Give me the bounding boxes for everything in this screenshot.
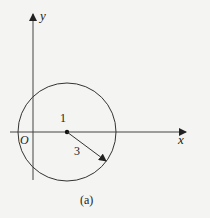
center-label: 1 [60,111,66,125]
radius-label: 3 [74,144,80,158]
radius-arrow [67,132,106,161]
circle-diagram: y x O 1 3 (a) [0,0,210,218]
y-axis-label: y [38,8,46,23]
x-axis-label: x [177,132,184,147]
origin-label: O [20,133,29,147]
figure-caption: (a) [80,193,93,207]
